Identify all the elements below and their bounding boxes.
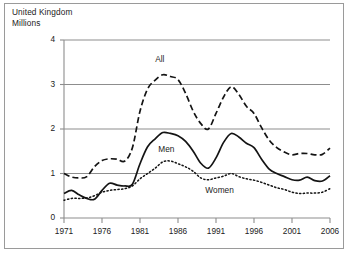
x-tick-marks — [64, 218, 330, 223]
y-tick-label-0: 0 — [41, 212, 55, 222]
data-series — [64, 75, 330, 201]
y-tick-marks — [60, 40, 64, 218]
series-line-women — [64, 161, 330, 200]
y-tick-label-4: 4 — [41, 34, 55, 44]
series-label-all: All — [155, 54, 164, 64]
x-tick-label-2001: 2001 — [275, 226, 309, 236]
x-tick-label-1971: 1971 — [47, 226, 81, 236]
series-line-men — [64, 132, 330, 200]
y-tick-label-3: 3 — [41, 79, 55, 89]
chart-figure: United Kingdom Millions 0123419711976198… — [0, 0, 348, 253]
x-tick-label-1976: 1976 — [85, 226, 119, 236]
gridlines — [64, 40, 330, 174]
x-tick-label-1996: 1996 — [237, 226, 271, 236]
series-label-men: Men — [158, 144, 174, 154]
x-tick-label-2006: 2006 — [313, 226, 347, 236]
x-tick-label-1981: 1981 — [123, 226, 157, 236]
series-label-women: Women — [205, 185, 233, 195]
y-tick-label-2: 2 — [41, 123, 55, 133]
x-tick-label-1991: 1991 — [199, 226, 233, 236]
x-tick-label-1986: 1986 — [161, 226, 195, 236]
y-tick-label-1: 1 — [41, 168, 55, 178]
series-line-all — [64, 75, 330, 178]
